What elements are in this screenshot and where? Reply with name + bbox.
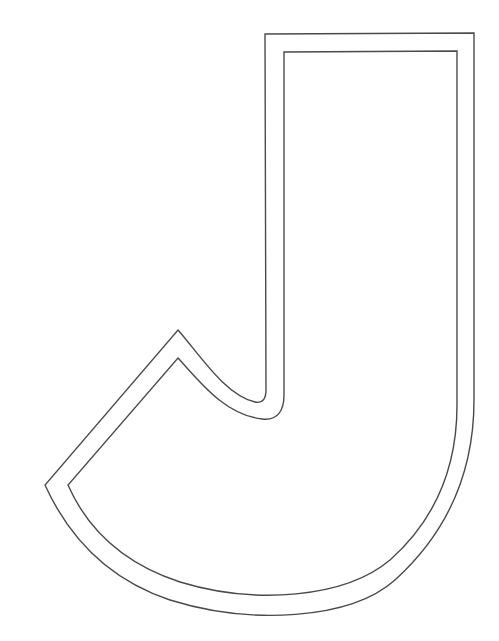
- coloring-page-canvas: J: [0, 0, 499, 641]
- outer-outline: [45, 33, 474, 615]
- inner-outline: [68, 51, 457, 595]
- letter-j-outline-icon: [0, 0, 499, 641]
